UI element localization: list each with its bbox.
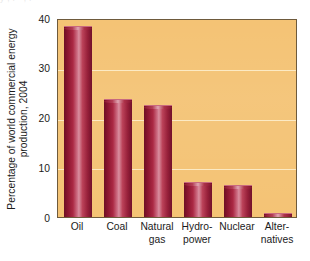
plot-area: [57, 19, 297, 218]
x-tick-label-line-2: natives: [253, 234, 301, 247]
y-tick-label: 20: [28, 113, 50, 124]
x-axis-tick-labels: OilCoalNaturalgasHydro-powerNuclearAlter…: [57, 221, 297, 259]
bar-cap: [144, 106, 172, 109]
bars-layer: [58, 20, 296, 217]
bar: [144, 105, 172, 217]
bar-cap: [224, 186, 252, 189]
bar: [104, 99, 132, 217]
x-tick-label-line-1: Natural: [140, 221, 173, 232]
bar: [184, 182, 212, 217]
bar: [64, 26, 92, 217]
y-axis-title-line-1: Percentage of world commercial energy: [6, 28, 19, 209]
bar-cap: [64, 27, 92, 30]
y-tick-label: 30: [28, 63, 50, 74]
x-tick-label-line-1: Hydro-: [182, 221, 213, 232]
y-tick-label: 10: [28, 163, 50, 174]
y-axis-tick-labels: 010203040: [28, 14, 50, 224]
x-tick-label-line-1: Oil: [71, 221, 84, 232]
x-tick-label: Alter-natives: [253, 221, 301, 246]
x-tick-label-line-1: Alter-: [265, 221, 290, 232]
bar: [224, 185, 252, 217]
x-tick-label-line-1: Nuclear: [219, 221, 254, 232]
bar-chart-figure: Percentage of world commercial energy pr…: [0, 0, 310, 261]
y-tick-label: 0: [28, 213, 50, 224]
bar-cap: [104, 100, 132, 103]
x-tick-label-line-1: Coal: [106, 221, 127, 232]
bar-cap: [264, 214, 292, 217]
y-tick-label: 40: [28, 14, 50, 25]
bar: [264, 213, 292, 217]
bar-cap: [184, 183, 212, 186]
x-tick-label-line-2: power: [173, 234, 221, 247]
